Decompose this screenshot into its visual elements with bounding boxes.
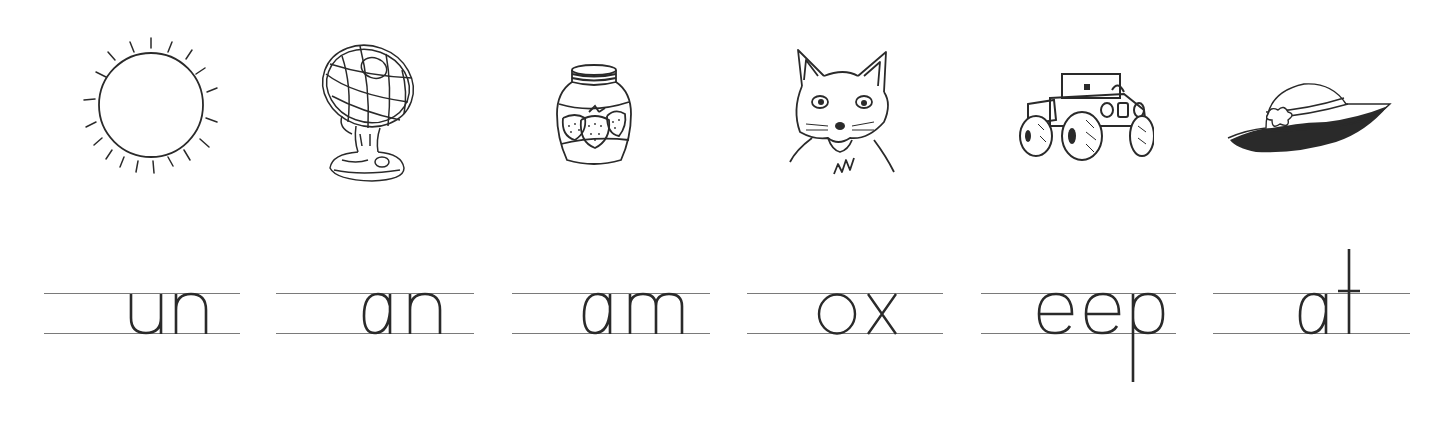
- sun-picture: [78, 32, 224, 178]
- word-ending-un: un: [124, 292, 224, 336]
- word-ending-am: am: [580, 292, 690, 336]
- word-ending-ox: ox: [816, 292, 906, 336]
- fan-picture: [312, 36, 424, 186]
- sun-icon: [78, 32, 224, 178]
- fan-icon: [312, 36, 424, 186]
- hat-picture: [1226, 78, 1392, 154]
- jam-jar-icon: [553, 62, 635, 170]
- word-ending-an: an: [360, 292, 460, 336]
- jeep-picture: [1014, 70, 1154, 162]
- jeep-icon: [1014, 70, 1154, 162]
- word-ending-at: at: [1298, 249, 1368, 337]
- word-ending-eep: eep: [1036, 292, 1170, 384]
- fox-icon: [788, 46, 900, 182]
- jam-jar-picture: [553, 62, 635, 170]
- hat-icon: [1226, 78, 1392, 154]
- fox-picture: [788, 46, 900, 182]
